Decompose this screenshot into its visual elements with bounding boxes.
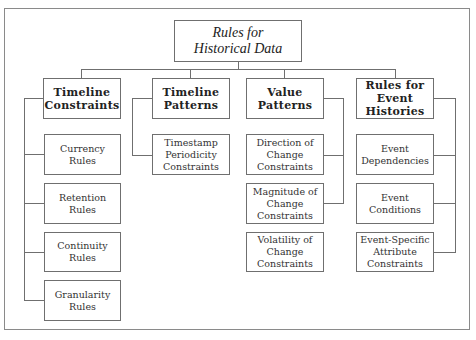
leaf-continuity-rules: Continuity Rules: [44, 232, 121, 272]
category-timeline-patterns: Timeline Patterns: [152, 78, 230, 119]
connector: [132, 98, 152, 99]
leaf-volatility-of-change-constraints: Volatility of Change Constraints: [246, 232, 324, 272]
connector: [132, 155, 152, 156]
connector: [24, 300, 44, 301]
connector: [324, 203, 344, 204]
connector: [434, 98, 455, 99]
leaf-event-dependencies: Event Dependencies: [356, 134, 434, 175]
connector: [434, 155, 455, 156]
connector: [24, 252, 44, 253]
leaf-magnitude-of-change-constraints: Magnitude of Change Constraints: [246, 183, 324, 224]
leaf-direction-of-change-constraints: Direction of Change Constraints: [246, 134, 324, 175]
leaf-currency-rules: Currency Rules: [44, 134, 121, 175]
connector: [343, 98, 344, 203]
leaf-granularity-rules: Granularity Rules: [44, 280, 121, 321]
connector: [81, 69, 396, 70]
leaf-event-conditions: Event Conditions: [356, 183, 434, 224]
root-node: Rules for Historical Data: [174, 20, 302, 62]
connector: [324, 155, 344, 156]
category-value-patterns: Value Patterns: [246, 78, 324, 119]
connector: [24, 98, 25, 301]
connector: [455, 98, 456, 253]
connector: [395, 69, 396, 78]
connector: [190, 69, 191, 78]
connector: [24, 203, 44, 204]
category-event-histories: Rules for Event Histories: [356, 78, 434, 119]
connector: [24, 154, 44, 155]
category-timeline-constraints: Timeline Constraints: [43, 78, 121, 119]
connector: [132, 98, 133, 155]
connector: [434, 203, 455, 204]
connector: [81, 69, 82, 78]
connector: [284, 69, 285, 78]
leaf-retention-rules: Retention Rules: [44, 183, 121, 224]
leaf-timestamp-periodicity-constraints: Timestamp Periodicity Constraints: [152, 134, 230, 175]
leaf-event-specific-attribute-constraints: Event-Specific Attribute Constraints: [356, 232, 434, 272]
connector: [324, 98, 344, 99]
connector: [434, 252, 455, 253]
connector: [238, 61, 239, 69]
connector: [24, 98, 43, 99]
